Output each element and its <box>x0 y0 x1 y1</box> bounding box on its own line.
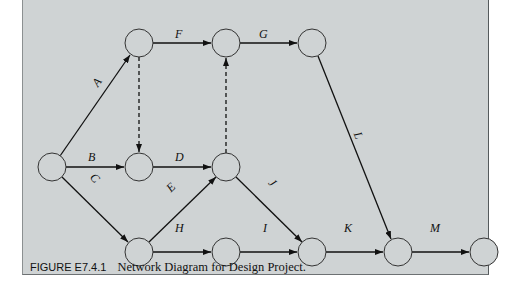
label-f: F <box>174 27 183 41</box>
network-diagram: A B C D E F G H I J K L M <box>0 0 528 300</box>
node-2 <box>125 29 153 57</box>
label-l: L <box>350 129 366 142</box>
label-h: H <box>174 221 185 235</box>
edge-a <box>60 55 130 156</box>
node-10 <box>384 238 412 266</box>
label-c: C <box>87 170 103 186</box>
label-m: M <box>429 221 441 235</box>
label-a: A <box>88 75 105 90</box>
edge-l <box>318 56 391 239</box>
node-5 <box>125 153 153 181</box>
label-d: D <box>174 150 184 164</box>
figure-caption: FIGURE E7.4.1 Network Diagram for Design… <box>30 260 306 275</box>
node-1 <box>38 153 66 181</box>
nodes <box>38 29 498 266</box>
figure-number: FIGURE E7.4.1 <box>30 261 106 273</box>
node-11 <box>470 238 498 266</box>
label-e: E <box>163 179 179 195</box>
node-4 <box>298 29 326 57</box>
label-j: J <box>266 176 280 190</box>
label-g: G <box>259 27 268 41</box>
figure-caption-text: Network Diagram for Design Project. <box>117 260 306 274</box>
edge-c <box>62 177 128 242</box>
label-i: I <box>262 221 268 235</box>
label-b: B <box>88 150 96 164</box>
node-3 <box>212 29 240 57</box>
node-6 <box>212 153 240 181</box>
label-k: K <box>343 221 353 235</box>
